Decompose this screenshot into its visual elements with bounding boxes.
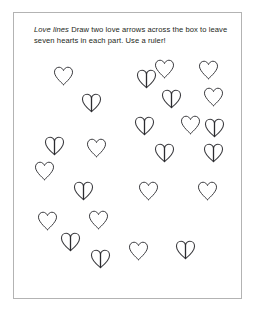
- heart-icon: [128, 241, 149, 261]
- heart-icon: [37, 211, 58, 231]
- heart-icon: [34, 161, 55, 181]
- heart-icon: [86, 138, 107, 158]
- heart-creased-icon: [175, 240, 196, 260]
- heart-creased-icon: [161, 89, 182, 109]
- heart-icon: [180, 115, 201, 135]
- heart-icon: [198, 60, 219, 80]
- heart-creased-icon: [204, 118, 225, 138]
- heart-icon: [154, 59, 175, 79]
- heart-icon: [53, 66, 74, 86]
- heart-icon: [203, 87, 224, 107]
- puzzle-page: Love lines Draw two love arrows across t…: [0, 0, 254, 318]
- heart-creased-icon: [73, 181, 94, 201]
- heart-creased-icon: [44, 136, 65, 156]
- heart-icon: [138, 181, 159, 201]
- heart-icon: [88, 210, 109, 230]
- heart-creased-icon: [134, 116, 155, 136]
- puzzle-frame: Love lines Draw two love arrows across t…: [13, 12, 242, 299]
- heart-creased-icon: [203, 143, 224, 163]
- heart-creased-icon: [81, 93, 102, 113]
- heart-creased-icon: [90, 249, 111, 269]
- heart-creased-icon: [60, 232, 81, 252]
- hearts-layer: [14, 13, 243, 300]
- heart-icon: [197, 181, 218, 201]
- heart-creased-icon: [154, 143, 175, 163]
